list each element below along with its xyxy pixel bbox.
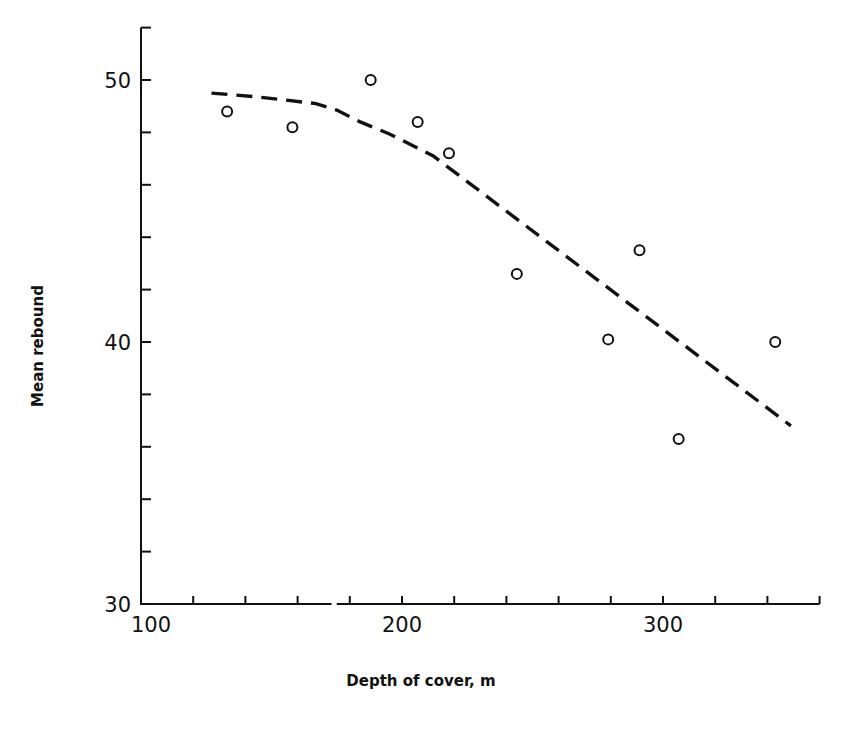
data-point-marker [770, 337, 780, 347]
data-point-marker [444, 148, 454, 158]
data-point-marker [413, 117, 423, 127]
data-point-marker [366, 75, 376, 85]
data-point-marker [674, 434, 684, 444]
data-point-marker [635, 245, 645, 255]
y-tick-label: 50 [104, 69, 131, 93]
data-markers [222, 75, 780, 444]
y-axis-title: Mean rebound [29, 285, 47, 407]
data-point-marker [512, 269, 522, 279]
data-point-marker [603, 334, 613, 344]
tick-labels: 304050100200300 [104, 69, 683, 637]
figure-caption: Fig. — Mean rebound plotted against dept… [180, 728, 680, 736]
x-tick-label: 100 [131, 613, 171, 637]
y-tick-label: 40 [104, 331, 131, 355]
axes [140, 28, 820, 605]
x-axis-title: Depth of cover, m [346, 672, 495, 690]
data-point-marker [287, 122, 297, 132]
x-tick-label: 300 [643, 613, 683, 637]
ticks [141, 28, 820, 604]
data-point-marker [222, 106, 232, 116]
chart: 304050100200300 Depth of cover, m Mean r… [0, 0, 849, 736]
trend-line [211, 93, 790, 426]
x-tick-label: 200 [382, 613, 422, 637]
y-tick-label: 30 [104, 593, 131, 617]
